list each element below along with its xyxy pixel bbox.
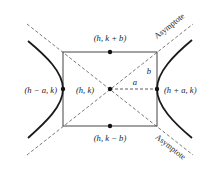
label-semi-axis-a: a (133, 77, 137, 87)
hyperbola-diagram: (h, k + b) (h, k − b) (h, k) (h − a, k) … (0, 0, 217, 171)
label-semi-axis-b: b (147, 66, 152, 76)
label-bottom-vertex: (h, k − b) (94, 133, 127, 143)
top-midpoint (108, 50, 112, 54)
label-asymptote-upper: Asymptote (153, 11, 187, 40)
label-right-vertex: (h + a, k) (164, 85, 197, 95)
left-vertex-point (61, 87, 65, 91)
label-asymptote-lower: Asymptote (154, 132, 188, 161)
center-point (108, 87, 112, 91)
label-left-vertex: (h − a, k) (24, 85, 57, 95)
label-center: (h, k) (76, 85, 94, 95)
right-vertex-point (155, 87, 159, 91)
bottom-midpoint (108, 124, 112, 128)
label-top-vertex: (h, k + b) (94, 33, 127, 43)
